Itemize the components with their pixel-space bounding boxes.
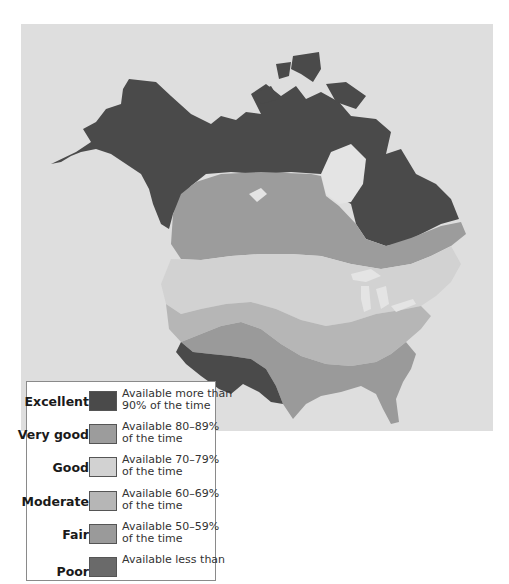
legend-swatch-very-good xyxy=(89,424,117,444)
legend-description: Available 70–79%of the time xyxy=(122,454,219,478)
legend-swatch-excellent xyxy=(89,391,117,411)
legend-item-good: Good Available 70–79%of the time xyxy=(27,454,217,484)
legend-description: Available less than xyxy=(122,554,225,566)
legend-description: Available 60–69%of the time xyxy=(122,488,219,512)
legend-label: Moderate xyxy=(21,494,89,509)
legend-label: Very good xyxy=(18,427,89,442)
map-legend: Excellent Available more than90% of the … xyxy=(26,381,216,581)
legend-swatch-poor xyxy=(89,557,117,577)
legend-item-poor: Poor Available less than xyxy=(27,554,217,584)
legend-label: Good xyxy=(53,460,89,475)
legend-swatch-good xyxy=(89,457,117,477)
legend-description: Available 80–89%of the time xyxy=(122,421,219,445)
legend-label: Poor xyxy=(56,564,89,579)
legend-description: Available more than90% of the time xyxy=(122,388,232,412)
map-frame xyxy=(21,24,493,431)
legend-label: Excellent xyxy=(25,394,89,409)
legend-item-fair: Fair Available 50–59%of the time xyxy=(27,521,217,551)
legend-label: Fair xyxy=(62,527,89,542)
legend-swatch-moderate xyxy=(89,491,117,511)
north-america-map xyxy=(21,24,493,431)
legend-swatch-fair xyxy=(89,524,117,544)
legend-description: Available 50–59%of the time xyxy=(122,521,219,545)
legend-item-moderate: Moderate Available 60–69%of the time xyxy=(27,488,217,518)
legend-item-very-good: Very good Available 80–89%of the time xyxy=(27,421,217,451)
legend-item-excellent: Excellent Available more than90% of the … xyxy=(27,388,217,418)
